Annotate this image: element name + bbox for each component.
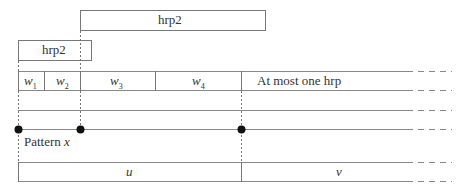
at-most-one-hrp-label: At most one hrp xyxy=(257,73,341,89)
u-label: u xyxy=(126,164,133,180)
segment-w1: w1 xyxy=(24,73,37,91)
top-hrp2-label: hrp2 xyxy=(158,12,182,28)
v-label: v xyxy=(336,164,342,180)
diagram-lines xyxy=(0,0,465,191)
left-hrp2-label: hrp2 xyxy=(42,42,66,58)
segment-w2: w2 xyxy=(56,73,69,91)
segment-w3: w3 xyxy=(110,73,123,91)
segment-w4: w4 xyxy=(192,73,205,91)
pattern-x-label: Pattern x xyxy=(24,134,70,150)
